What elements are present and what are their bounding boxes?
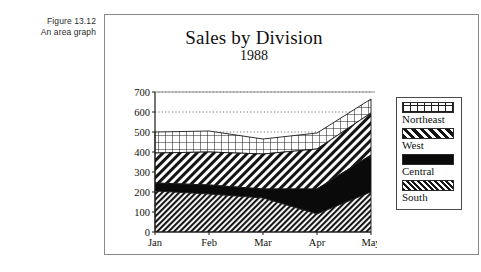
legend-item-northeast: Northeast [402,102,457,126]
legend-item-south: South [402,180,457,204]
legend-swatch-central [402,154,454,165]
chart-legend: Northeast West Central South [396,97,462,210]
legend-item-west: West [402,128,457,152]
figure-caption-number: Figure 13.12 [0,16,96,27]
y-tick-label: 300 [134,167,150,178]
chart-subtitle: 1988 [104,48,404,64]
figure-caption: Figure 13.12 An area graph [0,16,96,38]
y-tick-label: 600 [134,107,150,118]
chart-plot-area: 0100200300400500600700 JanFebMarAprMay [109,86,377,254]
legend-swatch-northeast [402,102,454,113]
chart-y-tick-labels: 0100200300400500600700 [134,87,155,238]
x-tick-label: May [361,237,377,248]
chart-x-tick-labels: JanFebMarAprMay [148,232,377,248]
y-tick-label: 0 [145,227,150,238]
y-tick-label: 200 [134,187,150,198]
figure-page: Figure 13.12 An area graph Sales by Divi… [0,0,481,272]
figure-caption-text: An area graph [0,27,96,38]
legend-label-northeast: Northeast [402,113,457,126]
legend-swatch-west [402,128,454,139]
x-tick-label: Jan [148,237,163,248]
legend-label-south: South [402,191,457,204]
legend-label-central: Central [402,165,457,178]
legend-label-west: West [402,139,457,152]
legend-swatch-south [402,180,454,191]
legend-item-central: Central [402,154,457,178]
x-tick-label: Feb [201,237,217,248]
chart-title: Sales by Division [104,27,404,49]
y-tick-label: 400 [134,147,150,158]
y-tick-label: 100 [134,207,150,218]
x-tick-label: Apr [309,237,326,248]
area-chart-svg: 0100200300400500600700 JanFebMarAprMay [109,86,377,254]
y-tick-label: 700 [134,87,150,98]
y-tick-label: 500 [134,127,150,138]
chart-series-areas [155,99,371,232]
x-tick-label: Mar [254,237,272,248]
